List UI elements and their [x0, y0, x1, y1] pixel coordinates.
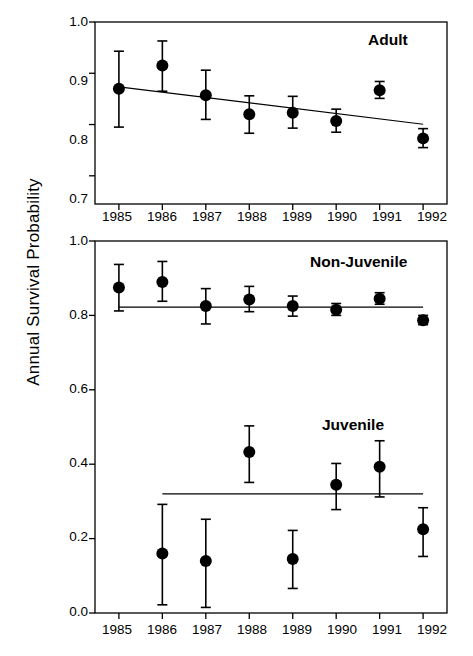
top-xtick-1987: 1987	[187, 209, 227, 224]
bottom-xtick-1987: 1987	[187, 622, 227, 637]
bottom-panel-plot	[0, 228, 473, 656]
bottom-ytick-0.2: 0.2	[52, 529, 88, 544]
bottom-xtick-1992: 1992	[412, 622, 452, 637]
top-xtick-1992: 1992	[412, 209, 452, 224]
top-ytick-0.7: 0.7	[52, 191, 88, 206]
top-xtick-1990: 1990	[322, 209, 362, 224]
bottom-ytick-1.0: 1.0	[52, 233, 88, 248]
top-xtick-1986: 1986	[142, 209, 182, 224]
bottom-series-label-juvenile: Juvenile	[322, 416, 384, 434]
top-ytick-0.8: 0.8	[52, 132, 88, 147]
bottom-ytick-0.6: 0.6	[52, 381, 88, 396]
bottom-ytick-0.4: 0.4	[52, 455, 88, 470]
top-ytick-0.9: 0.9	[52, 73, 88, 88]
bottom-ytick-0.0: 0.0	[52, 604, 88, 619]
bottom-panel-juvenile-nonjuvenile: 1.0 0.8 0.6 0.4 0.2 0.0 1985 1986 1987 1…	[0, 228, 473, 656]
bottom-xtick-1991: 1991	[367, 622, 407, 637]
top-series-label-adult: Adult	[368, 31, 408, 49]
bottom-xtick-1986: 1986	[142, 622, 182, 637]
top-xtick-1989: 1989	[277, 209, 317, 224]
bottom-xtick-1985: 1985	[97, 622, 137, 637]
bottom-xtick-1990: 1990	[322, 622, 362, 637]
bottom-xtick-1988: 1988	[232, 622, 272, 637]
top-panel-adult: 1.0 0.9 0.8 0.7 1985 1986 1987 1988 1989…	[0, 0, 473, 228]
top-ytick-1.0: 1.0	[52, 14, 88, 29]
bottom-ytick-0.8: 0.8	[52, 307, 88, 322]
bottom-series-label-non-juvenile: Non-Juvenile	[310, 253, 407, 271]
figure-root: Annual Survival Probability 1.0 0.9 0.8 …	[0, 0, 473, 656]
bottom-xtick-1989: 1989	[277, 622, 317, 637]
top-xtick-1985: 1985	[97, 209, 137, 224]
top-xtick-1991: 1991	[367, 209, 407, 224]
top-xtick-1988: 1988	[232, 209, 272, 224]
